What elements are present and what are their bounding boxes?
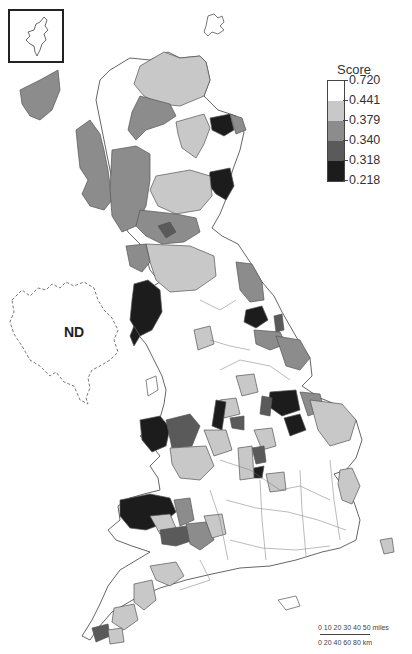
legend-break-label: 0.379 [349,113,380,127]
great-britain-outline [82,52,362,640]
region-barnsley [260,396,272,416]
region-warwickshire [266,472,286,492]
legend-break-label: 0.720 [349,73,380,87]
no-data-label: ND [64,324,84,340]
legend-tick [343,100,348,101]
legend-break-label: 0.318 [349,153,380,167]
region-cornwall-west [108,628,124,644]
isle-of-man [146,376,158,396]
legend-tick [343,80,348,81]
legend-tick [343,180,348,181]
scale-bar-line [320,634,370,637]
region-shropshire [238,446,254,480]
legend-tick [343,120,348,121]
legend-swatch-class-4 [328,141,344,161]
orkney-islands [204,14,224,36]
northern-ireland-no-data [10,282,118,404]
region-ayrshire [126,244,150,272]
legend-swatch-class-1 [328,81,344,101]
legend-swatch-class-3 [328,121,344,141]
region-norfolk-coast [338,468,360,504]
scale-miles-label: 0 10 20 30 40 50 miles [318,624,389,631]
legend-tick [343,140,348,141]
region-west-devon [134,580,156,610]
legend-swatch-class-2 [328,101,344,121]
region-cornwall-north [112,604,138,630]
region-sunderland [274,314,284,332]
legend-break-label: 0.218 [349,173,380,187]
legend-break-label: 0.441 [349,93,380,107]
legend-break-label: 0.340 [349,133,380,147]
legend-swatch-class-5 [328,161,344,181]
region-western-isles [20,70,60,120]
shetland-islands [26,17,48,56]
isle-of-wight [278,596,300,610]
region-thanet [380,538,394,554]
legend-tick [343,160,348,161]
scale-km-label: 0 20 40 60 80 km [318,639,372,646]
region-cheshire [230,416,244,430]
legend-color-bar [327,80,345,182]
